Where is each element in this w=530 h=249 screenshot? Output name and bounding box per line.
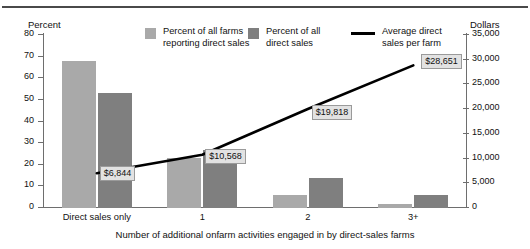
right-axis-tick-label: 15,000 (472, 127, 500, 137)
right-axis-tick-label: 25,000 (472, 77, 500, 87)
top-divider-rule (2, 6, 528, 8)
x-axis-title: Number of additional onfarm activities e… (0, 229, 530, 240)
x-category-label: Direct sales only (44, 212, 150, 222)
right-axis-tick-label: 30,000 (472, 53, 500, 63)
right-axis-tick (463, 34, 469, 35)
left-axis-tick-label: 70 (4, 50, 34, 60)
x-category-label: 2 (255, 212, 361, 222)
right-axis-tick-label: 35,000 (472, 28, 500, 38)
bar-direct-sales (309, 178, 343, 208)
bar-direct-sales (414, 195, 448, 208)
left-axis-tick-label: 20 (4, 158, 34, 168)
bars-layer (44, 34, 448, 208)
left-axis-tick-label: 80 (4, 28, 34, 38)
right-axis-tick-label: 10,000 (472, 152, 500, 162)
left-axis-tick-label: 50 (4, 93, 34, 103)
bar-farms-reporting (378, 204, 412, 208)
data-label-average-sales: $19,818 (312, 105, 353, 120)
chart-figure: Percent Dollars Percent of all farms rep… (0, 0, 530, 249)
bar-direct-sales (98, 93, 132, 208)
right-axis-tick-label: 0 (472, 201, 477, 211)
bar-farms-reporting (62, 61, 96, 208)
right-axis-tick (463, 59, 469, 60)
left-axis-tick-label: 0 (4, 201, 34, 211)
left-axis-tick-label: 40 (4, 115, 34, 125)
left-axis-tick-label: 60 (4, 71, 34, 81)
bar-farms-reporting (273, 195, 307, 208)
right-axis-tick-label: 20,000 (472, 102, 500, 112)
data-label-average-sales: $6,844 (100, 166, 136, 181)
left-axis-tick-label: 30 (4, 136, 34, 146)
bar-farms-reporting (167, 158, 201, 208)
right-axis-tick (463, 158, 469, 159)
right-axis-tick (463, 207, 469, 208)
data-label-average-sales: $28,651 (421, 54, 462, 69)
data-label-average-sales: $10,568 (205, 149, 246, 164)
right-axis-tick (463, 83, 469, 84)
right-axis-tick (463, 182, 469, 183)
x-category-label: 3+ (361, 212, 467, 222)
left-axis-tick-label: 10 (4, 179, 34, 189)
right-axis-tick (463, 108, 469, 109)
x-category-label: 1 (150, 212, 256, 222)
right-axis-tick-label: 5,000 (472, 176, 495, 186)
right-axis-tick (463, 133, 469, 134)
